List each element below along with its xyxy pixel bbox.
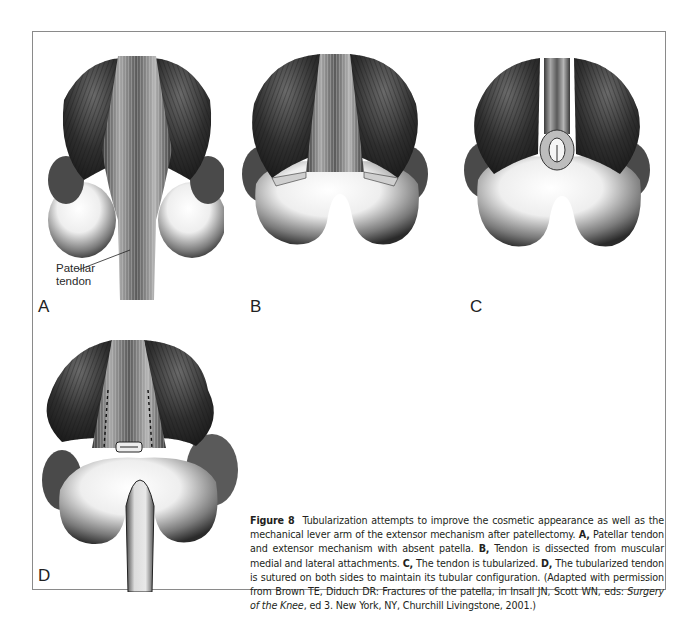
figure-caption: Figure 8 Tubularization attempts to impr…: [250, 514, 664, 613]
panel-d-illustration: [40, 330, 240, 592]
panel-label-d: D: [38, 566, 50, 586]
caption-credit-post: , ed 3. New York, NY, Churchill Livingst…: [304, 600, 536, 611]
callout-line-2: tendon: [56, 275, 95, 288]
panel-label-c: C: [470, 297, 482, 317]
panel-label-a: A: [38, 297, 49, 317]
panel-label-b: B: [250, 297, 261, 317]
caption-key-d: D,: [541, 558, 552, 569]
caption-text-c: The tendon is tubularized.: [416, 558, 538, 569]
callout-line-1: Patellar: [56, 262, 95, 275]
panel-b-illustration: [240, 44, 430, 264]
panel-c-illustration: [462, 50, 652, 260]
caption-key-a: A,: [579, 529, 590, 540]
caption-key-c: C,: [403, 558, 413, 569]
patellar-tendon-callout: Patellar tendon: [56, 262, 95, 288]
caption-key-b: B,: [479, 543, 490, 554]
figure-number: Figure 8: [250, 515, 295, 526]
